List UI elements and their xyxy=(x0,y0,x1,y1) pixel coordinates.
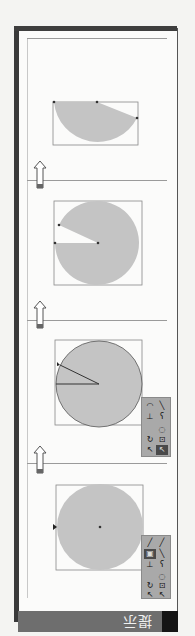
rotate-icon[interactable]: ↻ xyxy=(144,435,156,445)
type-icon[interactable]: ⊥ xyxy=(144,560,156,570)
step-arrow-icon xyxy=(33,160,47,190)
fill-icon[interactable]: ◌ xyxy=(156,425,168,435)
line-icon[interactable]: ╲ xyxy=(156,549,168,559)
eyedropper-icon[interactable]: ʕ xyxy=(156,412,168,422)
subselect-icon[interactable]: ↖ xyxy=(144,590,156,600)
panel-titlebar: 提示 xyxy=(18,611,178,632)
line-icon[interactable]: ╲ xyxy=(156,401,168,411)
toolbox-panel: ◠ ╲ ⊥ ʕ ◌ ↻ ⊡ ↖ ↖ xyxy=(141,397,171,457)
step-arrow-icon xyxy=(33,445,47,475)
lasso-icon[interactable]: ◠ xyxy=(144,401,156,411)
arrow-icon[interactable]: ↖ xyxy=(156,590,168,600)
toolbox-panel: ╱ ╱ ▣ ╲ ⊥ ʕ ◌ ↻ ⊡ ↖ ↖ xyxy=(141,535,171,599)
panel-title: 提示 xyxy=(122,613,152,633)
eyedropper-icon[interactable]: ʕ xyxy=(156,560,168,570)
subselect-icon[interactable]: ↖ xyxy=(144,445,156,455)
pencil-icon[interactable]: ╱ xyxy=(144,538,156,548)
arrow-icon[interactable]: ↖ xyxy=(156,445,168,455)
titlebar-end-block xyxy=(162,611,178,632)
step-arrow-icon xyxy=(33,300,47,330)
brush-icon[interactable]: ╱ xyxy=(156,538,168,548)
fill-icon[interactable]: ▣ xyxy=(144,549,156,559)
transform-icon[interactable]: ⊡ xyxy=(156,435,168,445)
type-icon[interactable]: ⊥ xyxy=(144,412,156,422)
